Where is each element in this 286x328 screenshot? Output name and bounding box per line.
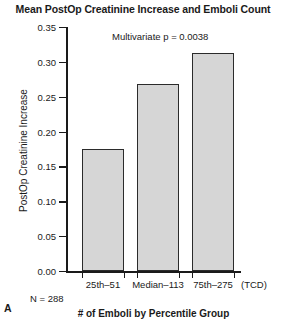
- y-tick-label-0.05: 0.05: [20, 231, 56, 242]
- x-tick-left-2: [137, 272, 138, 278]
- x-tick-left-3: [192, 272, 193, 278]
- tcd-units-label: (TCD): [241, 279, 267, 290]
- y-tick-label-0.00: 0.00: [20, 266, 56, 277]
- y-tick-0.15: [59, 166, 66, 167]
- y-tick-0.30: [59, 62, 66, 63]
- figure-panel-a: Mean PostOp Creatinine Increase and Embo…: [0, 0, 286, 328]
- y-tick-0.35: [59, 27, 66, 28]
- x-tick-right-1: [124, 272, 125, 278]
- y-tick-label-0.20: 0.20: [20, 127, 56, 138]
- y-tick-label-0.10: 0.10: [20, 196, 56, 207]
- x-tick-label-75th-275: 75th–275: [180, 279, 246, 290]
- sample-size-annotation: N = 288: [30, 293, 64, 304]
- y-tick-label-0.30: 0.30: [20, 57, 56, 68]
- x-axis-title: # of Emboli by Percentile Group: [46, 308, 261, 319]
- y-tick-0.00: [59, 271, 66, 272]
- y-tick-0.05: [59, 236, 66, 237]
- panel-label: A: [4, 302, 12, 314]
- x-tick-right-2: [179, 272, 180, 278]
- chart-title: Mean PostOp Creatinine Increase and Embo…: [0, 3, 286, 15]
- bar-median-113: [137, 84, 179, 271]
- y-tick-0.20: [59, 132, 66, 133]
- y-axis-title: PostOp Creatinine Increase: [18, 61, 29, 241]
- y-tick-0.25: [59, 97, 66, 98]
- y-tick-label-0.15: 0.15: [20, 161, 56, 172]
- y-tick-label-0.35: 0.35: [20, 22, 56, 33]
- bar-75th-275: [192, 53, 234, 271]
- y-tick-0.10: [59, 201, 66, 202]
- x-tick-right-3: [234, 272, 235, 278]
- y-tick-label-0.25: 0.25: [20, 92, 56, 103]
- bar-25th-51: [82, 149, 124, 272]
- y-axis-line: [66, 27, 68, 272]
- x-tick-left-1: [82, 272, 83, 278]
- x-axis-line: [66, 271, 241, 273]
- pvalue-annotation: Multivariate p = 0.0038: [112, 31, 208, 42]
